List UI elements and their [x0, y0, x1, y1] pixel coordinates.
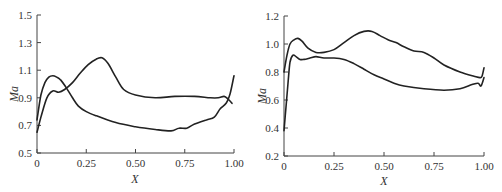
y-tick-label: 1.0 — [265, 38, 279, 50]
chart-left: 0.50.70.91.11.31.5 00.250.500.751.00 Ma … — [7, 9, 244, 186]
left-curves — [37, 58, 234, 133]
y-tick-label: 1.1 — [18, 64, 32, 76]
left-curve-1-line — [37, 76, 234, 131]
right-curve-lower-line — [284, 55, 484, 131]
right-y-ticks: 0.20.40.60.81.01.2 — [265, 10, 288, 162]
x-tick-label: 1.00 — [224, 157, 244, 169]
right-curves — [284, 31, 484, 131]
right-y-axis-title: Ma — [255, 88, 269, 105]
y-tick-label: 1.3 — [18, 37, 32, 49]
x-tick-label: 0.50 — [126, 157, 146, 169]
left-y-ticks: 0.50.70.91.11.31.5 — [18, 9, 41, 159]
x-tick-label: 0.75 — [424, 160, 444, 172]
left-y-axis-title: Ma — [7, 86, 21, 103]
x-tick-label: 0.25 — [324, 160, 344, 172]
x-tick-label: 1.00 — [474, 160, 494, 172]
x-tick-label: 0 — [34, 157, 40, 169]
x-tick-label: 0.25 — [77, 157, 97, 169]
y-tick-label: 0.5 — [18, 147, 32, 159]
chart-right: 0.20.40.60.81.01.2 00.250.500.751.00 Ma … — [255, 10, 494, 188]
right-x-ticks: 00.250.500.751.00 — [281, 152, 494, 172]
y-tick-label: 0.4 — [265, 122, 279, 134]
x-tick-label: 0 — [281, 160, 287, 172]
left-axes — [37, 15, 234, 153]
right-x-axis-title: X — [379, 174, 388, 188]
right-curve-upper-line — [284, 31, 484, 78]
y-tick-label: 0.2 — [265, 150, 279, 162]
left-x-ticks: 00.250.500.751.00 — [34, 149, 244, 169]
y-tick-label: 0.8 — [265, 66, 279, 78]
x-tick-label: 0.50 — [374, 160, 394, 172]
y-tick-label: 1.5 — [18, 9, 32, 21]
y-tick-label: 0.7 — [18, 119, 32, 131]
figure: 0.50.70.91.11.31.5 00.250.500.751.00 Ma … — [0, 0, 502, 192]
y-tick-label: 1.2 — [265, 10, 279, 22]
left-x-axis-title: X — [130, 172, 139, 186]
x-tick-label: 0.75 — [175, 157, 195, 169]
